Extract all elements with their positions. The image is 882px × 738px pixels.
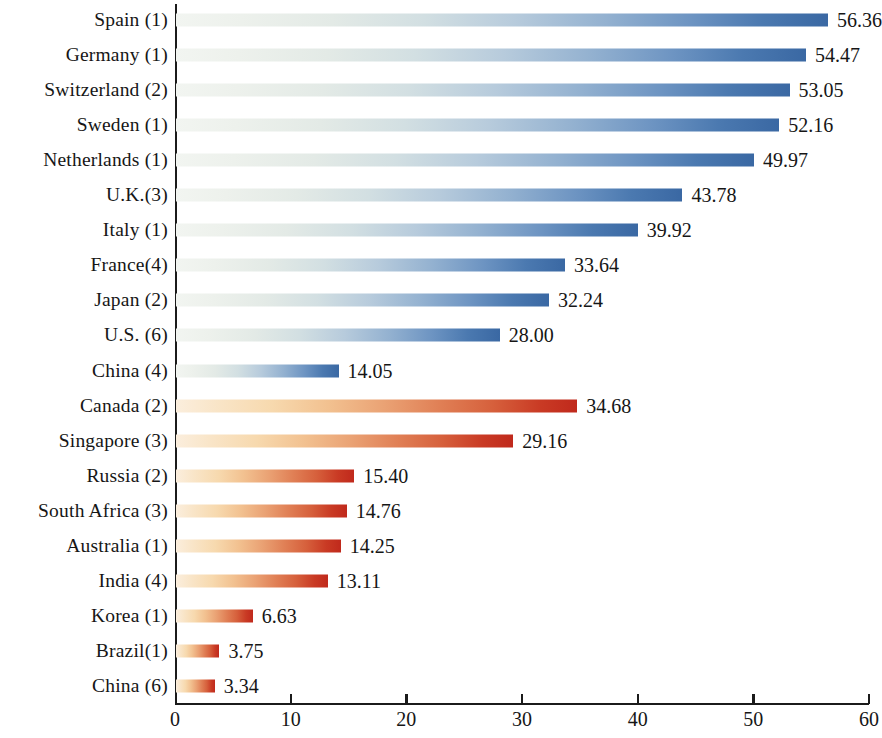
bar [176,259,565,272]
bar-value-label: 33.64 [574,255,619,275]
category-label: China (6) [0,676,168,696]
category-axis-labels: Spain (1)Germany (1)Switzerland (2)Swede… [0,0,168,738]
category-label: Russia (2) [0,466,168,486]
bar-value-label: 3.34 [224,676,259,696]
category-label: Germany (1) [0,45,168,65]
category-label: Italy (1) [0,221,168,241]
x-axis-tick [405,694,407,704]
bar-value-label: 32.24 [558,290,603,310]
x-axis-tick [521,694,523,704]
category-label: Korea (1) [0,606,168,626]
x-axis-tick-label: 50 [743,709,763,729]
bar [176,49,806,62]
category-label: India (4) [0,571,168,591]
x-axis-tick-label: 30 [512,709,532,729]
category-label: Switzerland (2) [0,80,168,100]
category-label: Singapore (3) [0,431,168,451]
bar [176,84,790,97]
x-axis-tick [290,694,292,704]
bar [176,609,253,622]
bar-value-label: 6.63 [262,606,297,626]
bar [176,469,354,482]
x-axis-tick-label: 60 [859,709,879,729]
category-label: Canada (2) [0,396,168,416]
bar [176,189,682,202]
bar [176,364,339,377]
bar [176,154,754,167]
bar [176,119,779,132]
bar-value-label: 52.16 [788,115,833,135]
category-label: Netherlands (1) [0,150,168,170]
bar-value-label: 39.92 [647,220,692,240]
bar [176,644,219,657]
x-axis-tick [637,694,639,704]
y-axis-line [175,4,177,705]
bar-value-label: 28.00 [509,325,554,345]
category-label: Spain (1) [0,10,168,30]
bar-value-label: 53.05 [799,80,844,100]
bar [176,539,341,552]
bar-value-label: 34.68 [586,396,631,416]
category-label: Sweden (1) [0,115,168,135]
x-axis-tick-label: 20 [396,709,416,729]
category-label: Japan (2) [0,291,168,311]
bar [176,679,215,692]
bar [176,504,347,517]
category-label: China (4) [0,361,168,381]
bar [176,329,500,342]
bar-value-label: 29.16 [522,431,567,451]
bar-value-label: 56.36 [837,10,882,30]
bar [176,224,638,237]
category-label: Brazil(1) [0,641,168,661]
bar-value-label: 15.40 [363,466,408,486]
bar-value-label: 14.25 [350,536,395,556]
bar-value-label: 49.97 [763,150,808,170]
category-label: U.K.(3) [0,186,168,206]
bar [176,14,828,27]
bar [176,434,513,447]
x-axis-tick-label: 10 [281,709,301,729]
category-label: Australia (1) [0,536,168,556]
bar-value-label: 54.47 [815,45,860,65]
bar [176,399,577,412]
bar-value-label: 14.05 [348,361,393,381]
bar [176,294,549,307]
bar [176,574,328,587]
x-axis-tick [752,694,754,704]
category-label: France(4) [0,256,168,276]
x-axis-tick-label: 0 [170,709,180,729]
x-axis-tick [868,694,870,704]
bar-value-label: 14.76 [356,501,401,521]
category-label: South Africa (3) [0,501,168,521]
plot-area: 56.3654.4753.0552.1649.9743.7839.9233.64… [175,0,880,738]
bar-value-label: 3.75 [228,641,263,661]
x-axis-tick-label: 40 [628,709,648,729]
bar-value-label: 43.78 [691,185,736,205]
bar-value-label: 13.11 [337,571,381,591]
category-label: U.S. (6) [0,326,168,346]
